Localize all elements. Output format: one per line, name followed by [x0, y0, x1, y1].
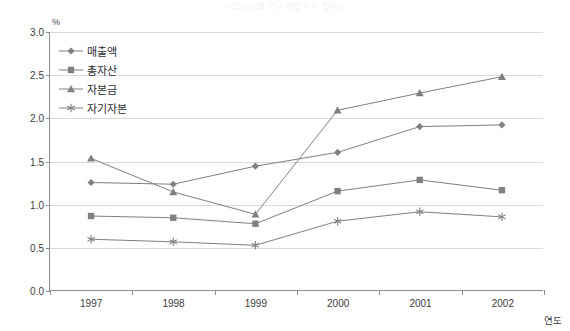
x-axis-tick-label: 2002 [492, 298, 514, 309]
data-point-square [252, 221, 258, 227]
data-point-square [334, 188, 340, 194]
data-point-diamond [334, 149, 341, 156]
legend-item[interactable]: 매출액 [58, 42, 127, 59]
x-axis-tick-label: 1999 [245, 298, 267, 309]
y-axis-tick-label: 2.0 [30, 113, 44, 124]
x-axis-tick-mark [50, 290, 51, 295]
legend-label: 자본금 [87, 81, 117, 97]
x-axis-tick-mark [544, 290, 545, 295]
y-axis-tick-label: 3.0 [30, 27, 44, 38]
x-axis-title: 연도 [544, 313, 562, 327]
y-axis-tick-label: 2.5 [30, 70, 44, 81]
series-line [91, 77, 502, 215]
chart-legend: 매출액총자산자본금자기자본 [58, 42, 127, 116]
y-axis-unit-label: % [52, 17, 60, 27]
data-point-diamond [67, 47, 74, 54]
data-point-square [88, 213, 94, 219]
y-axis-tick-label: 1.5 [30, 156, 44, 167]
x-axis-tick-mark [215, 290, 216, 295]
data-point-square [417, 177, 423, 183]
x-axis-tick-label: 1998 [162, 298, 184, 309]
data-point-square [170, 215, 176, 221]
data-point-diamond [416, 123, 423, 130]
series-line [91, 212, 502, 246]
y-axis-tick-label: 0.0 [30, 286, 44, 297]
data-point-diamond [252, 163, 259, 170]
series-line [91, 125, 502, 184]
legend-marker-asterisk-icon [58, 101, 84, 115]
y-axis-tick-label: 1.0 [30, 199, 44, 210]
data-point-triangle [87, 154, 95, 161]
legend-marker-triangle-icon [58, 82, 84, 96]
y-axis-tick-label: 0.5 [30, 242, 44, 253]
data-point-triangle [169, 188, 177, 195]
x-axis-tick-mark [297, 290, 298, 295]
x-axis-tick-label: 2000 [327, 298, 349, 309]
chart-title: 기업규모별 연구개발투자 집약도 [0, 0, 570, 11]
series-square [88, 177, 505, 227]
data-point-diamond [498, 121, 505, 128]
legend-label: 자기자본 [87, 100, 127, 116]
legend-item[interactable]: 총자산 [58, 61, 127, 78]
series-asterisk [87, 208, 505, 250]
legend-item[interactable]: 자본금 [58, 80, 127, 97]
data-point-diamond [87, 179, 94, 186]
data-point-square [68, 66, 74, 72]
x-axis-tick-mark [132, 290, 133, 295]
legend-label: 총자산 [87, 62, 117, 78]
data-point-diamond [170, 181, 177, 188]
chart-container: 기업규모별 연구개발투자 집약도 % 0.00.51.01.52.02.53.0… [0, 0, 570, 331]
x-axis-tick-label: 2001 [409, 298, 431, 309]
series-line [91, 180, 502, 224]
series-diamond [87, 121, 505, 188]
data-point-square [499, 187, 505, 193]
legend-label: 매출액 [87, 43, 117, 59]
legend-marker-square-icon [58, 63, 84, 77]
series-triangle [87, 73, 506, 218]
legend-marker-diamond-icon [58, 44, 84, 58]
data-point-triangle [498, 73, 506, 80]
x-axis-tick-mark [462, 290, 463, 295]
x-axis-tick-label: 1997 [80, 298, 102, 309]
legend-item[interactable]: 자기자본 [58, 99, 127, 116]
x-axis-tick-mark [379, 290, 380, 295]
